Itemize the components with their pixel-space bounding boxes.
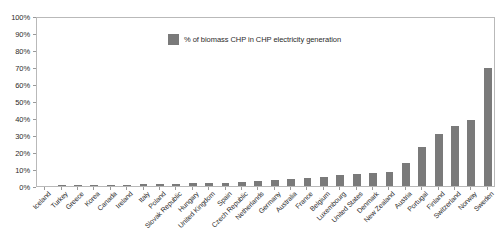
biomass-chp-bar-chart: 100%90%80%70%60%50%40%30%20%10%0% Icelan… bbox=[0, 0, 503, 251]
bar bbox=[107, 185, 115, 186]
bar bbox=[320, 177, 328, 186]
bar bbox=[271, 180, 279, 186]
bar bbox=[451, 126, 459, 186]
bar bbox=[156, 184, 164, 186]
x-axis-tick-label: Iceland bbox=[32, 190, 52, 210]
y-axis-tick-label: 80% bbox=[15, 47, 30, 56]
y-axis-tick-label: 70% bbox=[15, 64, 30, 73]
bar bbox=[402, 163, 410, 186]
bar bbox=[172, 184, 180, 186]
y-axis: 100%90%80%70%60%50%40%30%20%10%0% bbox=[0, 17, 33, 187]
bar bbox=[123, 185, 131, 186]
x-axis-tick-label: Ireland bbox=[115, 190, 135, 210]
y-axis-tick-label: 100% bbox=[11, 13, 30, 22]
y-axis-tick-label: 20% bbox=[15, 149, 30, 158]
bar bbox=[58, 185, 66, 186]
bar bbox=[254, 181, 262, 186]
bar bbox=[238, 182, 246, 186]
bar bbox=[189, 183, 197, 186]
legend: % of biomass CHP in CHP electricity gene… bbox=[168, 34, 341, 45]
x-axis: IcelandTurkeyGreeceKoreaCanadaIrelandIta… bbox=[36, 190, 495, 251]
y-axis-tick-label: 10% bbox=[15, 166, 30, 175]
y-axis-tick-label: 40% bbox=[15, 115, 30, 124]
y-axis-tick-label: 30% bbox=[15, 132, 30, 141]
bar bbox=[304, 178, 312, 186]
bar bbox=[435, 134, 443, 186]
bar bbox=[336, 175, 344, 186]
bar bbox=[287, 179, 295, 186]
bar bbox=[369, 173, 377, 186]
y-axis-tick-label: 60% bbox=[15, 81, 30, 90]
bar bbox=[140, 184, 148, 186]
bar bbox=[222, 183, 230, 186]
y-axis-tick-label: 90% bbox=[15, 30, 30, 39]
bar bbox=[386, 172, 394, 186]
bar bbox=[467, 120, 475, 186]
bar bbox=[484, 68, 492, 186]
y-axis-tick-label: 0% bbox=[19, 183, 30, 192]
legend-swatch-icon bbox=[168, 34, 179, 45]
bar bbox=[205, 183, 213, 186]
bar bbox=[353, 174, 361, 186]
bar bbox=[90, 185, 98, 186]
bar bbox=[418, 147, 426, 186]
bar bbox=[74, 185, 82, 186]
legend-label: % of biomass CHP in CHP electricity gene… bbox=[184, 35, 341, 44]
y-axis-tick-label: 50% bbox=[15, 98, 30, 107]
